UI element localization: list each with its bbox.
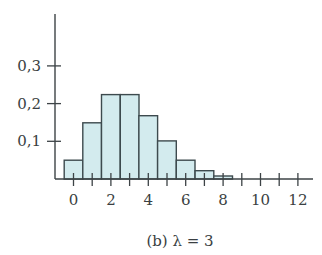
histogram-chart: 0,10,20,3 024681012 (b) λ = 3 [0,0,322,255]
y-tick-label: 0,2 [17,95,41,113]
y-tick-label: 0,1 [17,132,41,150]
x-tick-label: 6 [181,191,191,209]
chart-caption: (b) λ = 3 [146,232,213,250]
x-tick-label: 8 [218,191,228,209]
bars-group [64,95,232,179]
x-tick-label: 12 [288,191,307,209]
x-tick-label: 2 [106,191,116,209]
bar-4 [139,116,158,179]
y-tick-label: 0,3 [17,57,41,75]
x-tick-label: 10 [251,191,270,209]
bar-1 [83,123,102,179]
bar-3 [120,95,139,179]
x-tick-label: 0 [69,191,79,209]
bar-2 [102,95,121,179]
x-tick-label: 4 [144,191,154,209]
